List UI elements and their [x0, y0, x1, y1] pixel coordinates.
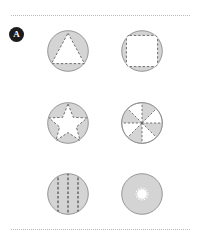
square-cutout-fill	[126, 35, 157, 66]
circle-with-triangle-cutout	[47, 30, 89, 72]
circle-with-scalloped-center-hole	[121, 173, 163, 215]
bottom-dotted-rule	[11, 229, 190, 231]
figure-grid	[0, 0, 200, 238]
circle-with-star-cutout	[47, 102, 89, 144]
circle-with-rounded-square-cutout	[121, 30, 163, 72]
figure-page: A	[0, 0, 200, 238]
circle-with-vertical-dashed-stripes	[47, 173, 89, 215]
circle-with-eight-segment-pinwheel	[121, 102, 163, 144]
